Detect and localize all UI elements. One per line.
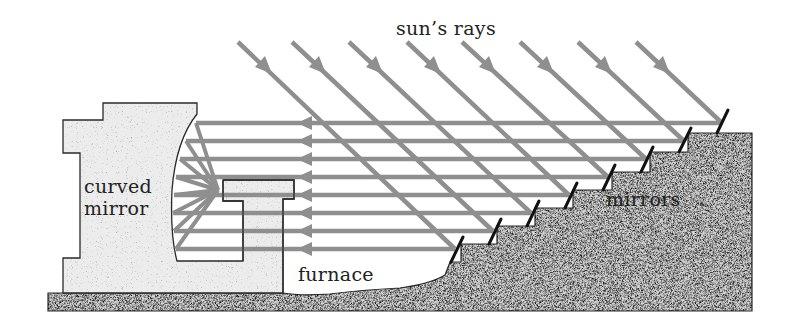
sun-rays-label: sun’s rays <box>396 18 496 38</box>
solar-furnace-diagram <box>0 0 788 332</box>
curved-mirror-label-line1: curved <box>84 176 152 196</box>
sun-ray-arrowheads <box>255 56 670 74</box>
reflected-ray-arrowheads <box>297 116 312 256</box>
mirrors-label: mirrors <box>606 189 681 209</box>
curved-mirror-label-line2: mirror <box>84 198 149 218</box>
furnace-label: furnace <box>298 264 374 284</box>
